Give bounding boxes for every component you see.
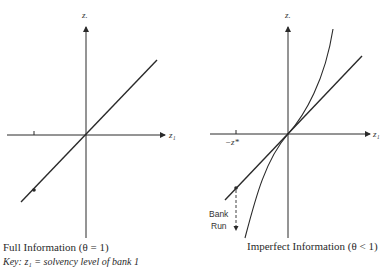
right-tick-label: −z* — [225, 137, 239, 147]
left-point — [32, 188, 36, 192]
left-caption: Full Information (θ = 1) — [3, 241, 109, 253]
bank-run-label-line1: Bank — [209, 208, 228, 220]
right-y-axis-label: z. — [285, 10, 291, 20]
diagram-canvas — [0, 0, 392, 273]
right-point — [234, 186, 238, 190]
left-panel-graph — [7, 27, 165, 238]
key-legend: Key: z₁ = solvency level of bank 1 — [3, 256, 139, 267]
bank-run-label-line2: Run — [211, 220, 227, 232]
bank-run-arrowhead — [234, 226, 239, 231]
left-y-axis-label: z. — [82, 10, 88, 20]
right-x-axis-label: z₁ — [373, 129, 380, 139]
right-panel-graph — [210, 27, 370, 238]
left-x-axis-label: z₁ — [169, 130, 176, 140]
right-caption: Imperfect Information (θ < 1) — [247, 240, 378, 252]
left-45-degree-line — [21, 60, 157, 202]
